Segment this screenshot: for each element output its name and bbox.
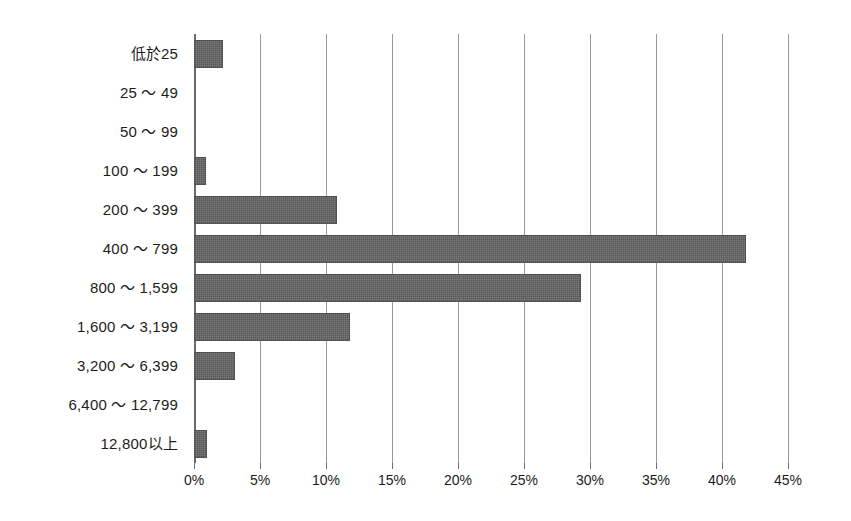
bar-row bbox=[194, 346, 788, 385]
bar bbox=[194, 430, 207, 458]
bar bbox=[194, 235, 746, 263]
value-tick-label: 35% bbox=[626, 472, 686, 489]
bar bbox=[194, 40, 223, 68]
gridline bbox=[788, 34, 789, 463]
category-label: 25 ～ 49 bbox=[0, 84, 178, 102]
bars-layer bbox=[194, 34, 788, 463]
bar-row bbox=[194, 73, 788, 112]
plot-area bbox=[194, 34, 788, 463]
bar-row bbox=[194, 190, 788, 229]
bar-row bbox=[194, 385, 788, 424]
value-tick-mark bbox=[788, 463, 789, 469]
category-label: 1,600 ～ 3,199 bbox=[0, 318, 178, 336]
value-tick-label: 10% bbox=[296, 472, 356, 489]
value-tick-label: 40% bbox=[692, 472, 752, 489]
category-label: 100 ～ 199 bbox=[0, 162, 178, 180]
bar bbox=[194, 157, 206, 185]
bar-row bbox=[194, 229, 788, 268]
category-label: 12,800以上 bbox=[0, 435, 178, 453]
category-label: 400 ～ 799 bbox=[0, 240, 178, 258]
bar-row bbox=[194, 268, 788, 307]
bar-row bbox=[194, 307, 788, 346]
value-tick-label: 15% bbox=[362, 472, 422, 489]
value-tick-mark bbox=[326, 463, 327, 469]
value-axis: 0%5%10%15%20%25%30%35%40%45% bbox=[194, 463, 788, 503]
bar bbox=[194, 313, 350, 341]
bar bbox=[194, 352, 235, 380]
value-tick-mark bbox=[656, 463, 657, 469]
category-label: 50 ～ 99 bbox=[0, 123, 178, 141]
category-axis: 低於2525 ～ 4950 ～ 99100 ～ 199200 ～ 399400 … bbox=[0, 34, 186, 463]
bar-row bbox=[194, 112, 788, 151]
bar-chart: 低於2525 ～ 4950 ～ 99100 ～ 199200 ～ 399400 … bbox=[0, 0, 851, 521]
bar-row bbox=[194, 424, 788, 463]
value-tick-label: 20% bbox=[428, 472, 488, 489]
value-tick-mark bbox=[458, 463, 459, 469]
value-tick-label: 25% bbox=[494, 472, 554, 489]
bar bbox=[194, 274, 581, 302]
category-label: 低於25 bbox=[0, 45, 178, 63]
category-label: 200 ～ 399 bbox=[0, 201, 178, 219]
category-label: 6,400 ～ 12,799 bbox=[0, 396, 178, 414]
value-tick-mark bbox=[722, 463, 723, 469]
bar bbox=[194, 196, 337, 224]
value-tick-label: 5% bbox=[230, 472, 290, 489]
value-tick-label: 45% bbox=[758, 472, 818, 489]
value-tick-label: 0% bbox=[164, 472, 224, 489]
bar-row bbox=[194, 151, 788, 190]
value-tick-mark bbox=[260, 463, 261, 469]
value-tick-mark bbox=[590, 463, 591, 469]
category-label: 3,200 ～ 6,399 bbox=[0, 357, 178, 375]
bar-row bbox=[194, 34, 788, 73]
value-tick-mark bbox=[392, 463, 393, 469]
category-label: 800 ～ 1,599 bbox=[0, 279, 178, 297]
value-tick-mark bbox=[524, 463, 525, 469]
value-tick-mark bbox=[194, 463, 195, 469]
value-tick-label: 30% bbox=[560, 472, 620, 489]
